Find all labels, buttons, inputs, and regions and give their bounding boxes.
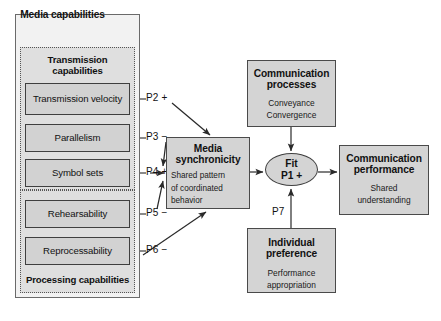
fit-line-1: Fit <box>285 158 297 169</box>
capability-label: Rehearsability <box>48 208 107 220</box>
node-title: Communication processes <box>248 68 335 91</box>
node-communication-performance[interactable]: Communication performance Shared underst… <box>339 145 429 215</box>
capability-label: Parallelism <box>55 132 101 144</box>
subtext-line-1: Performance <box>267 267 316 280</box>
subtext-line-1: Conveyance <box>267 97 317 109</box>
processing-capabilities-label: Processing capabilities <box>21 275 134 286</box>
edge-label-p5: P5 − <box>146 207 168 218</box>
subtext-line-2: Convergence <box>267 109 317 121</box>
node-title: Individual preference <box>248 237 335 260</box>
media-capabilities-label: Media capabilities <box>0 9 125 20</box>
capability-symbol-sets[interactable]: Symbol sets <box>25 159 130 187</box>
edge-p2-to-media-synchronicity <box>172 103 210 135</box>
node-title: Communication performance <box>340 153 428 176</box>
capability-transmission-velocity[interactable]: Transmission velocity <box>25 83 130 115</box>
node-fit[interactable]: Fit P1 + <box>265 153 318 186</box>
subtext-line-1: Shared <box>357 182 410 195</box>
node-subtext: Shared understanding <box>357 182 410 207</box>
capability-parallelism[interactable]: Parallelism <box>25 124 130 152</box>
node-communication-processes[interactable]: Communication processes Conveyance Conve… <box>247 60 336 127</box>
subtext-line-3: behavior <box>171 195 225 208</box>
capability-rehearsability[interactable]: Rehearsability <box>25 200 130 228</box>
capability-label: Transmission velocity <box>33 93 122 105</box>
subtext-line-1: Shared pattern <box>171 170 225 183</box>
media-synchronicity-diagram: Media capabilities Transmission capabili… <box>0 0 441 321</box>
subtext-line-2: of coordinated <box>171 183 225 196</box>
node-subtext: Shared pattern of coordinated behavior <box>167 170 225 208</box>
node-subtext: Performance appropriation <box>267 267 316 292</box>
capability-label: Reprocessability <box>43 245 112 257</box>
capability-label: Symbol sets <box>52 167 103 179</box>
edge-label-p4: P4 + <box>146 166 168 177</box>
transmission-capabilities-label: Transmission capabilities <box>21 55 134 76</box>
edge-label-p7: P7 <box>272 206 285 217</box>
node-title: Media synchronicity <box>167 143 249 166</box>
fit-line-2: P1 + <box>281 170 302 181</box>
subtext-line-2: appropriation <box>267 279 316 292</box>
subtext-line-2: understanding <box>357 194 410 207</box>
edge-label-p2: P2 + <box>146 92 168 103</box>
edge-p5-to-media-synchronicity <box>157 181 163 209</box>
node-subtext: Conveyance Convergence <box>267 97 317 121</box>
edge-label-p6: P6 − <box>146 244 168 255</box>
node-media-synchronicity[interactable]: Media synchronicity Shared pattern of co… <box>166 137 250 209</box>
capability-reprocessability[interactable]: Reprocessability <box>25 237 130 265</box>
edge-label-p3: P3 − <box>146 131 168 142</box>
node-individual-preference[interactable]: Individual preference Performance approp… <box>247 228 336 293</box>
